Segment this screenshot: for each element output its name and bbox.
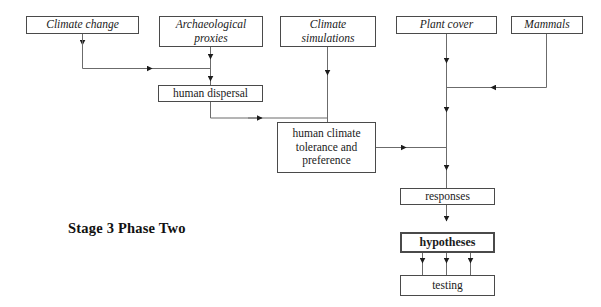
node-human-climate-tolerance-label: human climate tolerance and preference [289,127,363,168]
node-plant-cover[interactable]: Plant cover [396,16,497,34]
node-hypotheses[interactable]: hypotheses [400,232,495,253]
node-climate-simulations-label: Climate simulations [298,18,357,45]
node-testing-label: testing [429,279,466,293]
node-climate-simulations[interactable]: Climate simulations [280,16,376,47]
node-plant-cover-label: Plant cover [417,18,476,32]
node-responses-label: responses [422,190,473,204]
node-climate-change-label: Climate change [43,18,122,32]
node-archaeological-proxies[interactable]: Archaeological proxies [159,16,263,47]
node-archaeological-proxies-label: Archaeological proxies [173,18,249,45]
node-human-dispersal-label: human dispersal [170,87,251,101]
node-hypotheses-label: hypotheses [416,235,478,249]
edge-human-dispersal-stem [211,101,328,118]
node-mammals-label: Mammals [521,18,572,32]
stage-title: Stage 3 Phase Two [68,220,186,237]
node-mammals[interactable]: Mammals [511,16,583,34]
edge-mammals-stem [447,33,547,88]
node-testing[interactable]: testing [400,275,495,296]
flow-diagram: Climate change Archaeological proxies Cl… [0,0,601,307]
node-human-dispersal[interactable]: human dispersal [158,85,263,102]
node-human-climate-tolerance[interactable]: human climate tolerance and preference [277,122,376,173]
node-responses[interactable]: responses [400,188,495,205]
node-climate-change[interactable]: Climate change [26,16,139,34]
